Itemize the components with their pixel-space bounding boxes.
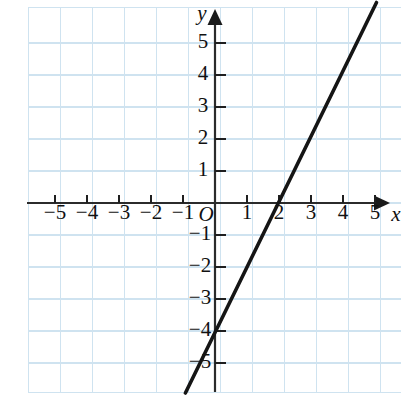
x-tick-label-3: 3	[306, 200, 317, 224]
y-tick-label-neg3: −3	[189, 285, 211, 309]
x-tick-label-5: 5	[370, 200, 381, 224]
y-tick-label-neg2: −2	[189, 253, 211, 277]
y-tick-label-2: 2	[198, 125, 209, 149]
y-tick-label-neg4: −4	[189, 317, 212, 341]
x-tick-label-neg3: −3	[108, 200, 130, 224]
x-axis-label: x	[390, 202, 401, 226]
coordinate-plane-figure: −5 −4 −3 −2 −1 1 2 3 4 5 5 4 3 2 1 −1 −2…	[0, 0, 405, 399]
x-tick-label-4: 4	[338, 200, 349, 224]
line-graph-svg: −5 −4 −3 −2 −1 1 2 3 4 5 5 4 3 2 1 −1 −2…	[0, 0, 405, 399]
y-tick-label-4: 4	[198, 61, 209, 85]
x-tick-label-neg2: −2	[140, 200, 162, 224]
y-tick-label-3: 3	[198, 93, 209, 117]
x-tick-label-1: 1	[242, 200, 253, 224]
x-tick-label-neg5: −5	[44, 200, 66, 224]
y-tick-label-1: 1	[198, 157, 209, 181]
y-tick-label-5: 5	[198, 29, 209, 53]
x-tick-label-neg4: −4	[76, 200, 99, 224]
y-axis-label: y	[195, 1, 207, 25]
origin-label: O	[198, 202, 213, 226]
